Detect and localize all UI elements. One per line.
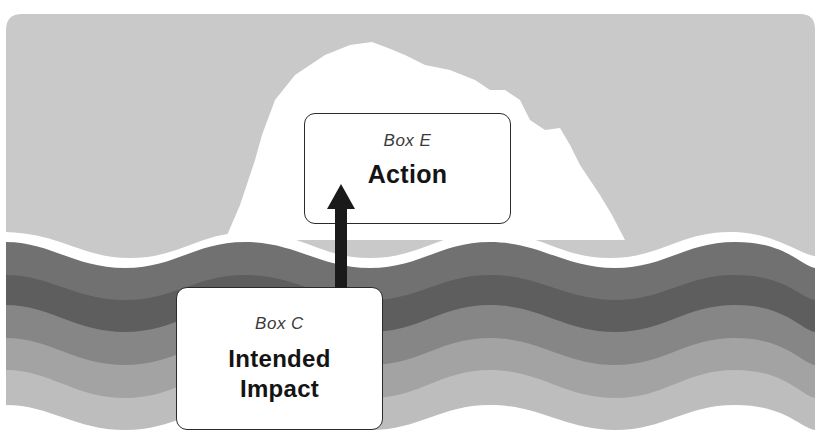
box-c-title-line2: Impact xyxy=(177,374,382,404)
box-c-label: Box C xyxy=(177,314,382,334)
box-c-title-line1: Intended xyxy=(177,344,382,374)
box-e-label: Box E xyxy=(305,131,510,151)
box-e-action: Box E Action xyxy=(304,113,511,224)
iceberg-diagram: Box E Action Box C Intended Impact xyxy=(0,0,827,433)
box-e-title: Action xyxy=(305,160,510,189)
box-c-intended-impact: Box C Intended Impact xyxy=(176,287,383,430)
